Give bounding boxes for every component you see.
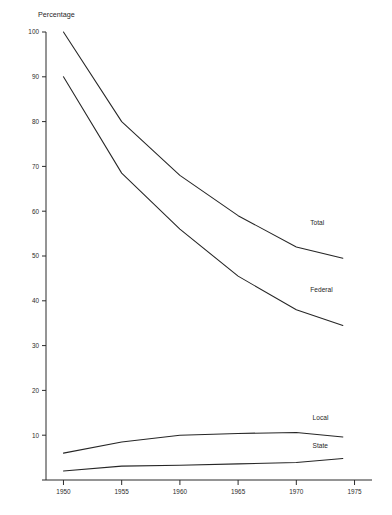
series-label-federal: Federal	[310, 286, 333, 293]
y-tick-label: 50	[32, 252, 40, 259]
series-line-state	[63, 459, 342, 472]
series-label-total: Total	[310, 219, 324, 226]
series-line-local	[63, 433, 342, 454]
y-tick-label: 10	[32, 432, 40, 439]
line-chart: 102030405060708090100 195019551960196519…	[0, 0, 392, 515]
series-label-state: State	[313, 442, 329, 449]
x-tick-label: 1965	[231, 488, 246, 495]
x-tick-label: 1955	[115, 488, 130, 495]
series-line-federal	[63, 77, 342, 326]
series-label-local: Local	[313, 414, 329, 421]
y-tick-label: 30	[32, 342, 40, 349]
series-line-total	[63, 32, 342, 258]
x-tick-label: 1970	[289, 488, 304, 495]
y-tick-label: 20	[32, 387, 40, 394]
y-tick-label: 80	[32, 118, 40, 125]
y-axis-title: Percentage	[38, 10, 75, 19]
x-tick-label: 1950	[56, 488, 71, 495]
series-layer	[63, 32, 342, 471]
y-tick-label: 90	[32, 73, 40, 80]
x-tick-label: 1975	[347, 488, 362, 495]
x-tick-label: 1960	[173, 488, 188, 495]
y-tick-label: 70	[32, 163, 40, 170]
x-axis: 195019551960196519701975	[46, 480, 372, 495]
y-tick-label: 40	[32, 297, 40, 304]
y-tick-label: 100	[28, 28, 39, 35]
chart-container: 102030405060708090100 195019551960196519…	[0, 0, 392, 515]
y-tick-label: 60	[32, 208, 40, 215]
y-axis: 102030405060708090100	[28, 28, 46, 480]
